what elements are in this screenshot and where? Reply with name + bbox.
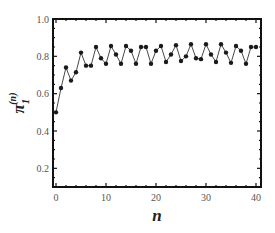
data-point [99,56,103,60]
data-point [149,62,153,66]
data-point [209,52,213,56]
x-tick-label: 40 [251,192,261,203]
y-label-sup: (n) [7,92,19,104]
data-point [54,110,58,114]
data-point [69,78,73,82]
y-tick-label: 0.2 [37,163,50,174]
data-point [109,44,113,48]
data-point [89,63,93,67]
y-tick-label: 0.6 [37,88,50,99]
chart: 0102030400.20.40.60.81.0 n π1(n) [0,0,275,233]
data-point [134,62,138,66]
axis-ticks [53,19,261,187]
data-point [144,45,148,49]
x-axis-label: n [152,206,161,225]
data-point [239,49,243,53]
data-point [214,60,218,64]
data-point [244,62,248,66]
data-point [169,52,173,56]
data-point [74,70,78,74]
data-point [189,42,193,46]
svg-text:π1(n): π1(n) [7,92,31,113]
data-point [249,45,253,49]
data-point [219,42,223,46]
y-tick-label: 0.4 [37,126,50,137]
data-point [229,61,233,65]
data-point [159,44,163,48]
y-tick-label: 0.8 [37,51,50,62]
data-point [114,52,118,56]
plot-frame [53,19,261,187]
data-point [179,59,183,63]
x-tick-label: 10 [101,192,111,203]
data-point [184,54,188,58]
data-point [199,57,203,61]
data-point [234,44,238,48]
data-point [194,56,198,60]
x-tick-label: 30 [201,192,211,203]
data-point [254,45,258,49]
data-point [224,50,228,54]
data-point [59,86,63,90]
y-label-sub: 1 [19,99,31,105]
y-axis-label: π1(n) [7,92,31,113]
data-point [119,62,123,66]
data-point [64,65,68,69]
data-point [164,60,168,64]
x-tick-label: 20 [151,192,161,203]
y-tick-label: 1.0 [37,14,50,25]
data-point [94,45,98,49]
data-point [84,63,88,67]
data-point [124,44,128,48]
data-point [154,49,158,53]
data-point [79,50,83,54]
data-point [204,42,208,46]
data-point [129,49,133,53]
data-point [139,45,143,49]
data-markers [54,42,258,115]
data-point [174,43,178,47]
x-tick-label: 0 [54,192,59,203]
axis-tick-labels: 0102030400.20.40.60.81.0 [37,14,262,204]
data-point [104,62,108,66]
